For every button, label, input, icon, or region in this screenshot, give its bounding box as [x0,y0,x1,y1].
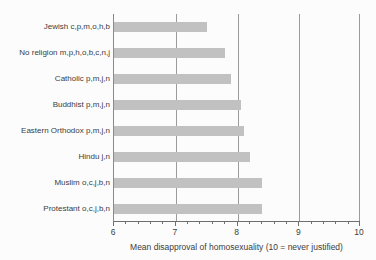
x-major-tick [175,222,176,226]
x-axis: 678910 [113,222,360,242]
x-minor-tick [323,222,324,224]
x-minor-tick [224,222,225,224]
category-label: Muslim o,c,j,b,n [0,179,110,187]
category-label: Buddhist p,m,j,n [0,101,110,109]
category-label: Jewish c,p,m,o,h,b [0,23,110,31]
category-label: Protestant o,c,j,b,n [0,205,110,213]
gridline-x-9 [299,14,300,221]
x-minor-tick [249,222,250,224]
x-minor-tick [162,222,163,224]
x-minor-tick [138,222,139,224]
x-minor-tick [274,222,275,224]
bar-jewish [114,22,207,32]
x-tick-label: 8 [234,228,239,237]
x-tick-label: 10 [354,228,363,237]
category-label: No religion m,p,h,o,b,c,n,j [0,49,110,57]
gridline-x-8 [238,14,239,221]
x-major-tick [113,222,114,226]
x-minor-tick [261,222,262,224]
bar-hindu [114,152,250,162]
gridline-x-7 [176,14,177,221]
x-minor-tick [335,222,336,224]
x-minor-tick [150,222,151,224]
bar-eastern [114,126,244,136]
x-minor-tick [286,222,287,224]
x-tick-label: 7 [172,228,177,237]
bar-buddhist [114,100,241,110]
x-major-tick [237,222,238,226]
plot-area [113,14,360,222]
bar-protestant [114,204,262,214]
bar-no [114,48,225,58]
x-tick-label: 6 [111,228,116,237]
category-label: Eastern Orthodox p,m,j,n [0,127,110,135]
category-label: Catholic p,m,j,n [0,75,110,83]
gridline-x-10 [359,14,360,221]
x-major-tick [298,222,299,226]
x-minor-tick [187,222,188,224]
x-minor-tick [199,222,200,224]
x-tick-label: 9 [296,228,301,237]
x-minor-tick [125,222,126,224]
x-minor-tick [348,222,349,224]
category-label: Hindu j,n [0,153,110,161]
bar-muslim [114,178,262,188]
x-axis-title: Mean disapproval of homosexuality (10 = … [113,242,360,252]
bar-chart-figure: Jewish c,p,m,o,h,bNo religion m,p,h,o,b,… [0,0,376,260]
x-minor-tick [212,222,213,224]
bar-catholic [114,74,231,84]
x-minor-tick [311,222,312,224]
x-major-tick [359,222,360,226]
